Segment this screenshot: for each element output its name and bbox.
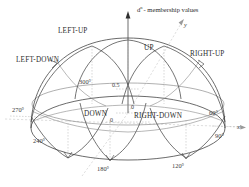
angle-tick-120: 120° bbox=[172, 163, 184, 169]
angle-tick-60: 60° bbox=[209, 110, 218, 116]
value-tick-0-5: 0.5 bbox=[112, 82, 120, 88]
figure-canvas: dn- membership values y x LEFT-UP UP RIG… bbox=[0, 0, 249, 187]
back-arc-left-low bbox=[34, 112, 128, 132]
angle-tick-300: 300° bbox=[79, 79, 91, 85]
x-axis-dashed bbox=[5, 119, 244, 127]
category-label-left-down: LEFT-DOWN bbox=[16, 57, 59, 64]
axis-title-superscript: n bbox=[140, 5, 142, 10]
angle-tick-90: 90° bbox=[215, 133, 224, 139]
axis-title: dn- membership values bbox=[137, 6, 198, 14]
x-axis-label: x bbox=[237, 124, 240, 130]
x-axis-arrowhead bbox=[240, 125, 246, 129]
z-axis-arrowhead bbox=[126, 11, 131, 19]
category-label-up: UP bbox=[144, 45, 154, 52]
angle-tick-240: 240° bbox=[33, 138, 45, 144]
back-arc-left bbox=[31, 105, 128, 122]
value-tick-0-top: 0 bbox=[131, 104, 134, 110]
construction-lines bbox=[5, 22, 244, 176]
category-label-right-down: RIGHT-DOWN bbox=[134, 113, 182, 120]
angle-tick-270: 270° bbox=[12, 107, 24, 113]
y-axis-label: y bbox=[184, 22, 187, 28]
lobe-seam-right bbox=[150, 60, 200, 106]
axis-title-rest: - membership values bbox=[144, 6, 199, 13]
dome-diagram bbox=[0, 0, 249, 187]
category-label-right-up: RIGHT-UP bbox=[190, 51, 224, 58]
category-label-down: DOWN bbox=[84, 111, 107, 118]
value-tick-0-base: 0 bbox=[110, 117, 113, 123]
category-label-left-up: LEFT-UP bbox=[58, 28, 88, 35]
angle-tick-180: 180° bbox=[97, 166, 109, 172]
